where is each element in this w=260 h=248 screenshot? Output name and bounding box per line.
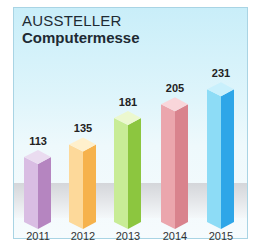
value-label: 113 — [29, 135, 47, 147]
x-axis-label: 2011 — [26, 230, 50, 242]
bar-chart: 11320111352012181201320520142312015 — [0, 0, 260, 248]
bar-front-face — [161, 104, 175, 229]
bar-2012 — [69, 137, 96, 229]
bar-side-face — [38, 157, 51, 229]
bar-2013 — [114, 111, 141, 229]
bar-side-face — [221, 89, 234, 229]
x-axis-label: 2013 — [116, 230, 140, 242]
value-label: 231 — [212, 67, 230, 79]
x-axis-label: 2012 — [71, 230, 95, 242]
bar-side-face — [83, 144, 96, 229]
bar-2014 — [161, 97, 188, 229]
bar-front-face — [24, 157, 38, 229]
x-axis-label: 2014 — [163, 230, 187, 242]
bar-2015 — [207, 82, 234, 229]
bar-front-face — [114, 118, 128, 229]
value-label: 181 — [119, 96, 137, 108]
bar-front-face — [69, 144, 83, 229]
value-label: 205 — [166, 82, 184, 94]
x-axis-label: 2015 — [209, 230, 233, 242]
bar-front-face — [207, 89, 221, 229]
bar-2011 — [24, 150, 51, 229]
value-label: 135 — [74, 122, 92, 134]
bar-side-face — [175, 104, 188, 229]
bar-side-face — [128, 118, 141, 229]
